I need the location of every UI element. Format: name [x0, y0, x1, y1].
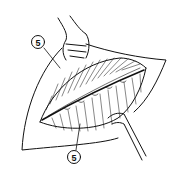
wound-lower-edge [40, 68, 146, 128]
callout-label-lower: 5 [71, 153, 76, 163]
surgical-illustration: 5 5 [0, 0, 178, 180]
callout-label-upper: 5 [35, 38, 40, 48]
drape-outline [22, 44, 166, 150]
tissue-bumps [64, 81, 126, 110]
upper-hatching [46, 58, 140, 110]
hand [58, 16, 89, 60]
callout-leader-upper [44, 48, 60, 68]
lower-hatching [52, 74, 141, 131]
